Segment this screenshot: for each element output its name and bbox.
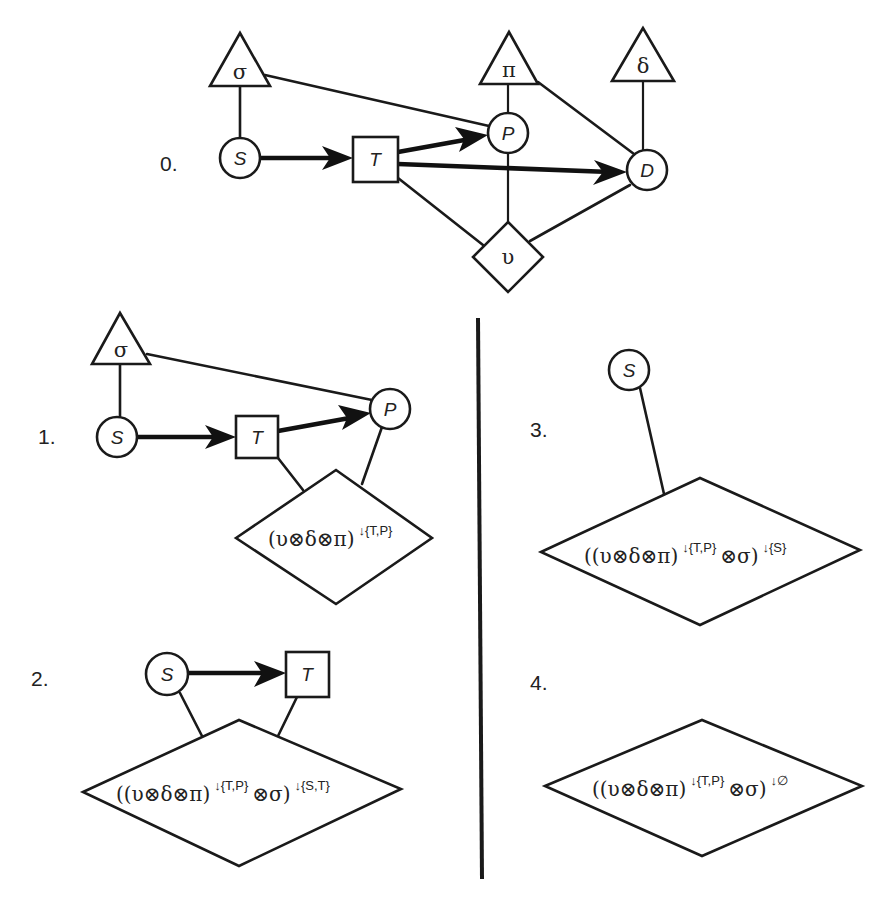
formula-superscript: ↓{T,P} <box>358 523 393 538</box>
label-upsilon: υ <box>502 245 515 269</box>
formula-superscript-1: ↓{T,P} <box>214 778 249 793</box>
panel-0: 0. σ π δ S T P D υ <box>160 28 674 292</box>
label-pi: π <box>502 58 516 82</box>
label-sigma: σ <box>114 338 128 362</box>
edge-sigma-P <box>265 75 489 126</box>
label-P: P <box>502 123 515 144</box>
edge-pi-D <box>538 82 634 154</box>
label-S: S <box>111 427 124 448</box>
label-P: P <box>384 399 397 420</box>
panel-label-0: 0. <box>160 152 178 175</box>
panel-4: 4. ((υ⊗δ⊗π) ↓{T,P} ⊗σ) ↓∅ <box>530 671 862 856</box>
label-S: S <box>161 664 174 685</box>
panel-divider <box>478 318 482 879</box>
edge-sigma-P <box>147 354 372 400</box>
edge-S-potential <box>180 693 202 736</box>
formula-superscript-1: ↓{T,P} <box>682 540 717 555</box>
formula-mid: ⊗σ) <box>728 777 766 801</box>
formula-base: (υ⊗δ⊗π) <box>268 527 354 551</box>
panel-label-4: 4. <box>530 671 548 694</box>
edge-T-potential <box>278 458 303 490</box>
panel-2: 2. S T ((υ⊗δ⊗π) ↓{T,P} ⊗σ) ↓{S,T} <box>31 652 401 866</box>
formula-base: ((υ⊗δ⊗π) <box>116 782 210 806</box>
arc-T-P <box>398 139 470 152</box>
formula-superscript-2: ↓∅ <box>770 773 788 788</box>
diagram-canvas: 0. σ π δ S T P D υ <box>0 0 893 909</box>
edge-T-potential <box>278 697 297 736</box>
formula-superscript-1: ↓{T,P} <box>690 773 725 788</box>
label-delta: δ <box>637 54 650 78</box>
formula-superscript-2: ↓{S} <box>762 540 787 555</box>
panel-label-3: 3. <box>530 418 548 441</box>
formula-base: ((υ⊗δ⊗π) <box>592 777 686 801</box>
label-sigma: σ <box>233 60 247 84</box>
panel-1: 1. σ S T P (υ⊗δ⊗π) ↓{T,P} <box>38 313 432 604</box>
label-T: T <box>251 427 264 448</box>
formula-base: ((υ⊗δ⊗π) <box>584 544 678 568</box>
panel-3: 3. S ((υ⊗δ⊗π) ↓{T,P} ⊗σ) ↓{S} <box>530 350 860 625</box>
panel-label-2: 2. <box>31 667 49 690</box>
label-S: S <box>234 148 247 169</box>
panel-label-1: 1. <box>38 425 56 448</box>
formula-mid: ⊗σ) <box>720 544 758 568</box>
edge-P-potential <box>362 427 382 484</box>
arc-T-D <box>398 164 610 172</box>
formula-mid: ⊗σ) <box>252 782 290 806</box>
edge-S-potential <box>640 388 664 494</box>
formula-superscript-2: ↓{S,T} <box>294 778 330 793</box>
label-S: S <box>623 360 636 381</box>
edge-T-upsilon <box>398 178 483 245</box>
diagram-figure: 0. σ π δ S T P D υ <box>0 0 893 909</box>
label-T: T <box>301 664 314 685</box>
edge-D-upsilon <box>530 185 630 241</box>
label-T: T <box>369 149 382 170</box>
label-D: D <box>640 160 654 181</box>
